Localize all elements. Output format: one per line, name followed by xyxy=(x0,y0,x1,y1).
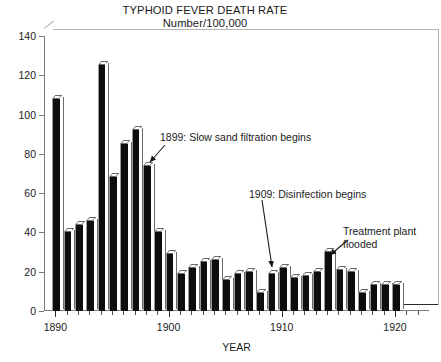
x-tick-minor xyxy=(101,311,102,315)
annotation-flood-line2: flooded xyxy=(343,238,377,251)
y-tick-label: 0 xyxy=(30,305,36,317)
bar-side-face xyxy=(400,283,404,309)
x-tick-minor xyxy=(135,311,136,315)
x-tick-minor xyxy=(67,311,68,315)
frame-right-rail xyxy=(438,29,439,305)
bar xyxy=(336,270,344,311)
bar xyxy=(120,144,128,311)
x-tick-minor xyxy=(112,311,113,315)
x-tick-label: 1910 xyxy=(270,321,293,333)
x-tick-minor xyxy=(338,311,339,315)
bar xyxy=(143,166,151,311)
bar xyxy=(358,293,366,311)
bar xyxy=(290,278,298,311)
bar xyxy=(234,274,242,311)
x-tick-major xyxy=(169,311,170,317)
x-tick-minor xyxy=(418,311,419,315)
y-tick-label: 100 xyxy=(18,109,36,121)
bar xyxy=(324,252,332,311)
y-tick-label: 140 xyxy=(18,30,36,42)
chart-title-block: TYPHOID FEVER DEATH RATE Number/100,000 xyxy=(40,4,370,30)
x-tick-minor xyxy=(406,311,407,315)
y-tick xyxy=(39,36,44,37)
x-tick-minor xyxy=(191,311,192,315)
x-tick-minor xyxy=(259,311,260,315)
x-tick-minor xyxy=(214,311,215,315)
y-tick-label: 40 xyxy=(24,226,36,238)
plot-area: 020406080100120140 1890190019101920 YEAR xyxy=(44,36,429,311)
y-tick xyxy=(39,193,44,194)
chart-container: TYPHOID FEVER DEATH RATE Number/100,000 … xyxy=(0,0,441,362)
y-tick xyxy=(39,75,44,76)
bar xyxy=(52,99,60,311)
x-tick-minor xyxy=(203,311,204,315)
y-tick-label: 20 xyxy=(24,266,36,278)
bar xyxy=(75,225,83,311)
bar xyxy=(302,276,310,311)
x-tick-minor xyxy=(372,311,373,315)
annotation-disinfection: 1909: Disinfection begins xyxy=(249,188,366,201)
bar xyxy=(268,274,276,311)
y-tick xyxy=(39,154,44,155)
y-tick-label: 60 xyxy=(24,187,36,199)
x-tick-minor xyxy=(180,311,181,315)
x-tick-minor xyxy=(225,311,226,315)
bar xyxy=(256,293,264,311)
frame-top-rail xyxy=(53,29,438,30)
bar xyxy=(392,285,400,311)
x-tick-minor xyxy=(316,311,317,315)
bar xyxy=(188,268,196,311)
x-tick-minor xyxy=(384,311,385,315)
x-axis-title: YEAR xyxy=(44,341,429,353)
x-tick-minor xyxy=(146,311,147,315)
x-tick-minor xyxy=(78,311,79,315)
x-tick-minor xyxy=(304,311,305,315)
x-tick-minor xyxy=(350,311,351,315)
x-tick-minor xyxy=(293,311,294,315)
x-tick-minor xyxy=(270,311,271,315)
y-axis-line xyxy=(44,36,45,311)
bar xyxy=(200,262,208,311)
bar xyxy=(211,260,219,311)
bar xyxy=(313,272,321,311)
bar xyxy=(245,272,253,311)
x-tick-minor xyxy=(327,311,328,315)
annotation-filtration: 1899: Slow sand filtration begins xyxy=(160,131,311,144)
x-tick-minor xyxy=(157,311,158,315)
x-tick-major xyxy=(55,311,56,317)
x-tick-minor xyxy=(248,311,249,315)
bar xyxy=(154,232,162,311)
x-tick-minor xyxy=(361,311,362,315)
x-tick-label: 1890 xyxy=(44,321,67,333)
annotation-flood-line1: Treatment plant xyxy=(343,225,416,238)
bar xyxy=(132,130,140,311)
x-tick-minor xyxy=(89,311,90,315)
bar xyxy=(109,177,117,311)
x-tick-major xyxy=(395,311,396,317)
chart-title: TYPHOID FEVER DEATH RATE xyxy=(40,4,370,17)
bar xyxy=(86,221,94,311)
bar xyxy=(222,280,230,311)
x-tick-minor xyxy=(237,311,238,315)
y-tick-label: 120 xyxy=(18,69,36,81)
x-tick-label: 1900 xyxy=(157,321,180,333)
bar xyxy=(347,272,355,311)
bar xyxy=(166,254,174,311)
y-tick xyxy=(39,311,44,312)
y-tick xyxy=(39,232,44,233)
bar xyxy=(279,268,287,311)
x-tick-label: 1920 xyxy=(383,321,406,333)
x-tick-major xyxy=(282,311,283,317)
bar xyxy=(381,285,389,311)
x-tick-minor xyxy=(123,311,124,315)
bar xyxy=(177,274,185,311)
bar xyxy=(64,232,72,311)
bar xyxy=(98,65,106,311)
y-tick xyxy=(39,272,44,273)
bar xyxy=(370,285,378,311)
y-tick-label: 80 xyxy=(24,148,36,160)
y-tick xyxy=(39,115,44,116)
